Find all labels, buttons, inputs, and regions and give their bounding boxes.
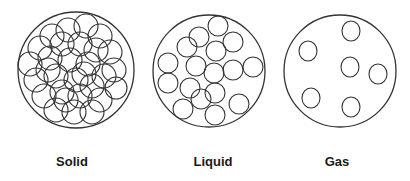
gas-particles xyxy=(299,21,387,117)
gas-label: Gas xyxy=(325,154,350,169)
liquid-particles xyxy=(158,16,263,125)
liquid-container xyxy=(153,15,265,127)
gas-container xyxy=(284,15,396,127)
solid-label: Solid xyxy=(56,154,88,169)
liquid-label: Liquid xyxy=(194,154,233,169)
solid-container xyxy=(18,12,134,128)
